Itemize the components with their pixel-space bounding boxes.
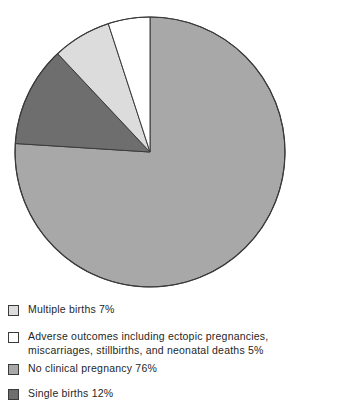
legend-item-adverse-outcomes: Adverse outcomes including ectopic pregn… xyxy=(0,330,337,357)
pie-chart-svg xyxy=(0,0,337,296)
pie-slice-group xyxy=(15,17,285,287)
legend-label-adverse-outcomes: Adverse outcomes including ectopic pregn… xyxy=(28,330,324,357)
legend-label-multiple-births: Multiple births 7% xyxy=(28,303,115,317)
legend-swatch-single-births xyxy=(8,389,19,400)
legend-item-no-clinical-pregnancy: No clinical pregnancy 76% xyxy=(0,362,337,382)
legend-label-no-clinical-pregnancy: No clinical pregnancy 76% xyxy=(28,362,157,376)
pie-chart-plot-area xyxy=(0,0,337,296)
legend-label-single-births: Single births 12% xyxy=(28,387,113,401)
legend-item-multiple-births: Multiple births 7% xyxy=(0,303,337,323)
legend-swatch-multiple-births xyxy=(8,305,19,316)
legend-item-single-births: Single births 12% xyxy=(0,387,337,404)
chart-legend: Multiple births 7% Adverse outcomes incl… xyxy=(0,296,337,391)
legend-swatch-no-clinical-pregnancy xyxy=(8,364,19,375)
legend-swatch-adverse-outcomes xyxy=(8,332,19,343)
